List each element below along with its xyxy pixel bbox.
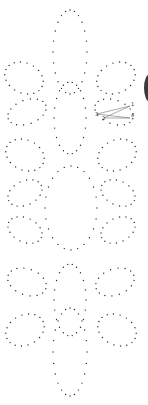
dot: [69, 307, 70, 308]
dot: [134, 195, 135, 196]
dot: [83, 137, 84, 138]
dot: [28, 313, 29, 314]
dot: [64, 248, 65, 249]
dot: [110, 98, 111, 99]
top-teardrop: [52, 9, 87, 94]
dot: [119, 294, 120, 295]
dot: [61, 313, 62, 314]
dot: [56, 280, 57, 281]
dot: [96, 288, 97, 289]
dot: [103, 273, 104, 274]
dot: [113, 313, 114, 314]
dot: [132, 232, 133, 233]
dot: [16, 216, 17, 217]
dot: [11, 122, 12, 123]
stitch-number-label: 4: [131, 112, 134, 118]
mid-left-petal-c: [7, 216, 42, 244]
dot: [85, 117, 86, 118]
dot: [67, 153, 68, 154]
dot: [130, 204, 131, 205]
dot: [102, 147, 103, 148]
dot: [10, 322, 11, 323]
dot: [98, 278, 99, 279]
dot: [78, 389, 79, 390]
dot: [8, 275, 9, 276]
dot: [67, 264, 68, 265]
dot: [98, 321, 99, 322]
dot: [9, 142, 10, 143]
dot: [84, 329, 85, 330]
dot: [95, 196, 96, 197]
dot: [102, 195, 103, 196]
dot: [42, 101, 43, 102]
dot: [53, 299, 54, 300]
dot: [131, 142, 132, 143]
dot: [119, 216, 120, 217]
dot: [28, 170, 29, 171]
dot: [109, 123, 110, 124]
dot: [59, 145, 60, 146]
mid-left-petal-b: [7, 179, 42, 207]
dot: [32, 179, 33, 180]
dot: [37, 119, 38, 120]
dot: [54, 127, 55, 128]
dot: [74, 92, 75, 93]
dot: [93, 228, 94, 229]
dot: [61, 88, 62, 89]
dot: [86, 340, 87, 341]
dot: [132, 118, 133, 119]
dot: [85, 309, 86, 310]
dot: [5, 333, 6, 334]
dot: [11, 204, 12, 205]
dot: [100, 232, 101, 233]
dot: [43, 278, 44, 279]
dot: [41, 237, 42, 238]
dot: [96, 207, 97, 208]
dot: [130, 108, 131, 109]
dot: [76, 85, 77, 86]
dot: [7, 113, 8, 114]
dot: [15, 345, 16, 346]
dot: [98, 163, 99, 164]
dot: [97, 158, 98, 159]
dot: [109, 179, 110, 180]
dot: [21, 169, 22, 170]
dot: [10, 162, 11, 163]
dot: [67, 82, 68, 83]
dot: [52, 178, 53, 179]
dot: [126, 139, 127, 140]
dot: [45, 196, 46, 197]
dot: [26, 62, 27, 63]
stitch-number-label: 2: [102, 115, 105, 121]
dot: [55, 373, 56, 374]
dot: [38, 90, 39, 91]
dot: [11, 270, 12, 271]
dot: [55, 329, 56, 330]
dot: [16, 124, 17, 125]
dot: [122, 240, 123, 241]
dot: [65, 11, 66, 12]
upper-left-petal-a: [4, 61, 44, 94]
dot: [95, 283, 96, 284]
dot: [22, 100, 23, 101]
dot: [110, 269, 111, 270]
dot: [117, 267, 118, 268]
dot: [6, 327, 7, 328]
dot: [41, 189, 42, 190]
dot: [85, 107, 86, 108]
dot: [59, 272, 60, 273]
dot: [65, 309, 66, 310]
dot: [97, 75, 98, 76]
dot: [131, 162, 132, 163]
dot: [21, 345, 22, 346]
dot: [81, 320, 82, 321]
dot: [45, 218, 46, 219]
dot: [131, 322, 132, 323]
dot: [6, 157, 7, 158]
dot: [125, 205, 126, 206]
dot: [15, 166, 16, 167]
dot: [77, 167, 78, 168]
dot: [80, 327, 81, 328]
dot: [74, 394, 75, 395]
dot: [76, 332, 77, 333]
